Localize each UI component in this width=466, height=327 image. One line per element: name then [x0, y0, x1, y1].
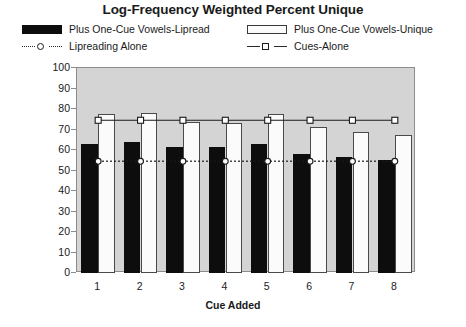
marker-cues-alone [265, 117, 271, 123]
marker-lipreading-alone [265, 158, 271, 164]
marker-lipreading-alone [138, 158, 144, 164]
marker-cues-alone [95, 117, 101, 123]
legend-item-plus-one-cue-vowels-lipread: Plus One-Cue Vowels-Lipread [22, 24, 210, 35]
legend-swatch-hollow-icon [247, 25, 287, 34]
marker-lipreading-alone [180, 158, 186, 164]
marker-cues-alone [138, 117, 144, 123]
chart-legend: Plus One-Cue Vowels-Lipread Plus One-Cue… [0, 24, 466, 58]
y-axis-tick-label: 80 [38, 103, 70, 113]
x-axis-tick-label: 6 [299, 281, 319, 291]
marker-cues-alone [392, 117, 398, 123]
legend-solid-line-square-icon [247, 41, 287, 52]
legend-swatch-filled-icon [22, 25, 62, 34]
legend-label: Plus One-Cue Vowels-Lipread [69, 24, 210, 35]
plot-area [76, 67, 415, 272]
marker-lipreading-alone [222, 158, 228, 164]
legend-label: Cues-Alone [294, 41, 349, 52]
x-axis-tick-label: 3 [172, 281, 192, 291]
y-axis-tick-label: 60 [38, 144, 70, 154]
legend-item-lipreading-alone: Lipreading Alone [22, 41, 147, 52]
x-axis-tick-label: 2 [130, 281, 150, 291]
x-axis-tick-label: 7 [341, 281, 361, 291]
legend-item-cues-alone: Cues-Alone [247, 41, 349, 52]
y-axis-tick-label: 50 [38, 165, 70, 175]
marker-cues-alone [180, 117, 186, 123]
marker-lipreading-alone [350, 158, 356, 164]
y-axis-tick-label: 70 [38, 124, 70, 134]
y-axis-tick-label: 10 [38, 247, 70, 257]
legend-item-plus-one-cue-vowels-unique: Plus One-Cue Vowels-Unique [247, 24, 433, 35]
marker-lipreading-alone [392, 158, 398, 164]
y-axis-tick-label: 20 [38, 226, 70, 236]
legend-label: Lipreading Alone [69, 41, 147, 52]
x-axis-tick-label: 4 [214, 281, 234, 291]
y-axis-tick-label: 90 [38, 83, 70, 93]
marker-cues-alone [307, 117, 313, 123]
y-axis-tick-label: 40 [38, 185, 70, 195]
chart-container: Log-Frequency Weighted Percent Unique Pl… [0, 0, 466, 327]
x-axis-tick-label: 1 [87, 281, 107, 291]
marker-lipreading-alone [95, 158, 101, 164]
marker-cues-alone [349, 117, 355, 123]
y-axis-tick-label: 30 [38, 206, 70, 216]
x-axis-tick-label: 8 [384, 281, 404, 291]
marker-cues-alone [222, 117, 228, 123]
legend-dotted-line-circle-icon [22, 41, 62, 52]
x-axis-tick-label: 5 [257, 281, 277, 291]
y-axis-tick-label: 100 [38, 62, 70, 72]
y-axis-tick-label: 0 [38, 267, 70, 277]
marker-lipreading-alone [307, 158, 313, 164]
y-axis-tick-mark [71, 272, 76, 273]
legend-label: Plus One-Cue Vowels-Unique [294, 24, 433, 35]
x-axis-title: Cue Added [0, 299, 466, 311]
chart-title: Log-Frequency Weighted Percent Unique [0, 2, 466, 17]
line-series-layer [77, 68, 416, 273]
